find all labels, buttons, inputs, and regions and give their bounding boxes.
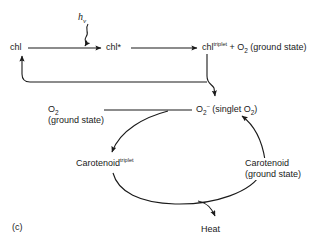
photon-label: hv <box>78 11 86 22</box>
panel-label: (c) <box>12 222 23 232</box>
node-heat: Heat <box>201 224 220 235</box>
figure-panel-c: hv chl chl* chltriplet + O2 (ground stat… <box>0 0 329 249</box>
arrow-feedback-to-chl <box>22 56 207 82</box>
node-chl-triplet-base: chl <box>202 42 214 52</box>
node-carotenoid-ground-state: Carotenoid (ground state) <box>245 158 301 180</box>
arrow-photon-absorption <box>85 24 88 46</box>
node-o2-ground-line2: (ground state) <box>48 115 104 126</box>
node-chl-label: chl <box>10 42 22 52</box>
node-o2-ground-line1: O2 <box>48 104 104 115</box>
node-chl-triplet-superscript: triplet <box>214 41 227 47</box>
arrow-carotenoid-triplet-to-ground <box>113 172 262 204</box>
node-chl-excited: chl* <box>106 42 121 53</box>
photon-subscript: v <box>83 17 86 25</box>
node-carotenoid-ground-line1: Carotenoid <box>245 158 301 169</box>
node-superoxide-base: O <box>196 104 203 114</box>
node-chl-triplet: chltriplet + O2 (ground state) <box>202 42 306 53</box>
node-carotenoid-ground-line2: (ground state) <box>245 169 301 180</box>
node-carotenoid-triplet: Carotenoidtriplet <box>76 158 133 169</box>
node-chl-triplet-state: (ground state) <box>248 42 307 52</box>
node-carotenoid-triplet-superscript: triplet <box>120 157 133 163</box>
node-o2-ground-state: O2 (ground state) <box>48 104 104 126</box>
node-superoxide-close-paren: ) <box>254 104 257 114</box>
node-o2-symbol: O <box>48 104 55 114</box>
node-carotenoid-triplet-base: Carotenoid <box>76 158 120 168</box>
node-chl-triplet-plus-o2: + O <box>227 42 244 52</box>
arrow-carotenoid-ground-to-superoxide <box>242 116 265 160</box>
node-heat-label: Heat <box>201 224 220 234</box>
arrow-superoxide-to-carotenoid-triplet <box>112 111 168 152</box>
arrow-chl-triplet-to-superoxide <box>207 54 215 96</box>
node-superoxide-singlet-text: (singlet O <box>210 104 251 114</box>
node-chl-excited-label: chl* <box>106 42 121 52</box>
node-superoxide-subscript: 2 <box>203 109 207 116</box>
node-superoxide: O2– (singlet O2) <box>196 104 257 115</box>
node-chl: chl <box>10 42 22 53</box>
